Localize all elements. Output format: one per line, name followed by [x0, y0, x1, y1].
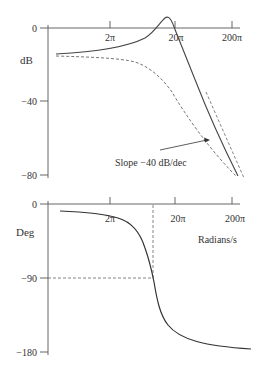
x-tick-20pi: 20π	[168, 32, 183, 43]
y-tick-minus40db: −40	[21, 96, 37, 107]
arrowhead-icon	[204, 138, 210, 143]
phase-curve	[60, 211, 251, 349]
y-tick-0deg: 0	[32, 199, 37, 210]
x-tick-2pi: 2π	[105, 213, 115, 224]
frequency-axis-label: Radians/s	[198, 234, 237, 245]
y-tick-minus90deg: −90	[21, 273, 37, 284]
y-tick-minus80db: −80	[21, 170, 37, 181]
actual-magnitude-curve	[56, 17, 238, 176]
magnitude-plot: 0 −40 −80 dB 2π 20π 200π Slope −40 dB/de…	[20, 17, 244, 181]
phase-y-label: Deg	[16, 226, 35, 238]
slope-arrow	[160, 140, 207, 150]
x-tick-2pi: 2π	[105, 32, 115, 43]
phase-plot: 0 −90 −180 Deg 2π 20π 200π Radians/s	[16, 197, 251, 358]
slope-annotation: Slope −40 dB/dec	[115, 157, 187, 168]
y-tick-0db: 0	[32, 23, 37, 34]
bode-plot: 0 −40 −80 dB 2π 20π 200π Slope −40 dB/de…	[0, 0, 270, 374]
y-tick-minus180deg: −180	[16, 347, 37, 358]
x-tick-20pi: 20π	[170, 213, 185, 224]
x-tick-200pi: 200π	[225, 213, 245, 224]
asymptote-line	[206, 92, 244, 178]
x-tick-200pi: 200π	[222, 32, 242, 43]
magnitude-y-label: dB	[20, 54, 33, 66]
